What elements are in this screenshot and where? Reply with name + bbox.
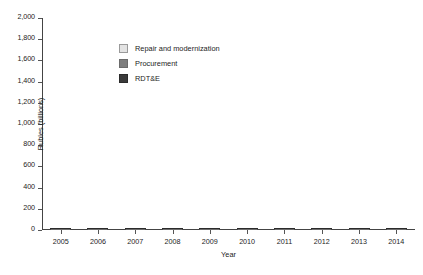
legend-item[interactable]: Procurement — [119, 56, 220, 71]
bar-group-2013: 2013 — [342, 18, 376, 230]
y-axis-tick-label: 1,000 — [18, 118, 36, 127]
plot-area: 02004006008001,0001,2001,4001,6001,8002,… — [42, 18, 415, 230]
legend-item-label: RDT&E — [135, 74, 160, 83]
bar-group-2012: 2012 — [305, 18, 339, 230]
bar-group-2011: 2011 — [268, 18, 302, 230]
bar-group-2005: 2005 — [44, 18, 78, 230]
repair-swatch — [119, 44, 128, 53]
y-axis-tick-label: 1,600 — [18, 54, 36, 63]
x-axis-tick-mark — [98, 230, 99, 234]
x-axis-tick-mark — [210, 230, 211, 234]
x-axis-tick-mark — [359, 230, 360, 234]
y-axis-tick-label: 0 — [31, 224, 35, 233]
y-axis-tick-label: 200 — [23, 203, 35, 212]
x-axis-tick-mark — [284, 230, 285, 234]
x-axis-tick-label: 2009 — [202, 237, 218, 246]
x-axis-tick-label: 2012 — [314, 237, 330, 246]
y-axis-tick-mark — [38, 230, 42, 231]
x-axis-tick-label: 2010 — [239, 237, 255, 246]
bar-group-2010: 2010 — [230, 18, 264, 230]
x-axis-tick-mark — [173, 230, 174, 234]
y-axis-tick-label: 600 — [23, 160, 35, 169]
legend-item-label: Repair and modernization — [135, 44, 220, 53]
bar-group-2014: 2014 — [380, 18, 414, 230]
legend-item[interactable]: RDT&E — [119, 71, 220, 86]
legend-item-label: Procurement — [135, 59, 177, 68]
x-axis-tick-label: 2006 — [90, 237, 106, 246]
x-axis-tick-mark — [396, 230, 397, 234]
x-axis-tick-label: 2011 — [277, 237, 292, 246]
x-axis-tick-label: 2013 — [351, 237, 367, 246]
x-axis-tick-mark — [247, 230, 248, 234]
procurement-swatch — [119, 59, 128, 68]
x-axis-tick-label: 2014 — [388, 237, 404, 246]
x-axis-tick-mark — [135, 230, 136, 234]
x-axis-title: Year — [42, 250, 415, 259]
x-axis-tick-label: 2008 — [165, 237, 181, 246]
x-axis-tick-mark — [322, 230, 323, 234]
y-axis-tick-label: 400 — [23, 182, 35, 191]
rdte-swatch — [119, 74, 128, 83]
x-axis-tick-mark — [61, 230, 62, 234]
y-axis-tick-label: 800 — [23, 139, 35, 148]
y-axis-tick-label: 1,400 — [18, 76, 36, 85]
bar-group-2006: 2006 — [81, 18, 115, 230]
chart-screenshot: 02004006008001,0001,2001,4001,6001,8002,… — [0, 0, 423, 275]
chart-legend: Repair and modernizationProcurementRDT&E — [119, 41, 220, 86]
x-axis-tick-label: 2007 — [127, 237, 143, 246]
x-axis-tick-label: 2005 — [53, 237, 69, 246]
y-axis-tick-label: 1,800 — [18, 33, 36, 42]
y-axis-tick-label: 1,200 — [18, 97, 36, 106]
legend-item[interactable]: Repair and modernization — [119, 41, 220, 56]
y-axis-tick-label: 2,000 — [18, 12, 36, 21]
bar-series-container: 2005200620072008200920102011201220132014 — [42, 18, 415, 230]
